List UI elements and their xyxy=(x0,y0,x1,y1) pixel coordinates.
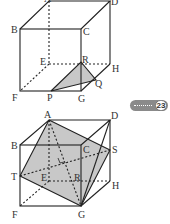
svg-text:C: C xyxy=(83,26,90,37)
dotted-arrow-icon xyxy=(134,105,152,106)
svg-text:C: C xyxy=(83,144,90,155)
svg-text:F: F xyxy=(12,92,18,103)
svg-text:H: H xyxy=(112,180,119,191)
svg-text:A: A xyxy=(44,109,52,120)
svg-text:H: H xyxy=(112,63,119,74)
svg-text:A: A xyxy=(44,0,52,4)
svg-text:G: G xyxy=(78,209,85,220)
svg-text:E: E xyxy=(40,56,46,67)
svg-text:T: T xyxy=(11,171,17,182)
svg-text:R: R xyxy=(82,54,89,65)
svg-text:S: S xyxy=(112,144,118,155)
shaded-triangle-pqr xyxy=(51,62,96,91)
svg-text:B: B xyxy=(11,140,18,151)
svg-text:Q: Q xyxy=(95,78,103,89)
svg-text:B: B xyxy=(11,24,18,35)
svg-text:D: D xyxy=(111,110,118,121)
problem-number: 23 xyxy=(155,100,167,111)
svg-text:E: E xyxy=(41,172,47,183)
svg-text:P: P xyxy=(47,92,53,103)
geometry-diagram: A D B C E H F G P R Q A D B C S T E R H xyxy=(0,0,170,224)
cube-1-labels: A D B C E H F G P R Q xyxy=(11,0,119,104)
cube-2 xyxy=(20,120,110,206)
svg-text:R: R xyxy=(74,172,81,183)
problem-number-badge: 23 xyxy=(130,100,168,111)
svg-text:G: G xyxy=(78,93,85,104)
svg-text:D: D xyxy=(111,0,118,7)
svg-text:F: F xyxy=(12,209,18,220)
